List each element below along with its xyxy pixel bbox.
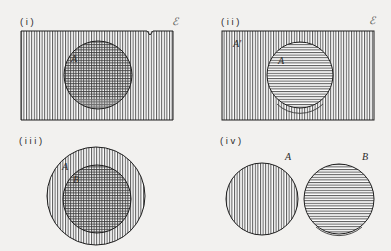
panel-i-number: ( i ) [20, 16, 34, 27]
panel-i-set-a-label: A [70, 53, 78, 64]
panel-iv: ( i v ) A B [220, 135, 375, 236]
panel-iv-set-a-label: A [284, 151, 292, 162]
panel-iv-set-a-fill [225, 162, 299, 236]
panel-iv-set-b-label: B [362, 151, 368, 162]
panel-iii: ( i i i ) A B [19, 135, 147, 247]
panel-ii-complement-label: A' [232, 38, 242, 49]
panel-ii-number: ( i i ) [221, 16, 239, 27]
panel-i: ( i ) ℰ A [20, 16, 180, 120]
set-diagram-figure: ( i ) ℰ A ( i i ) ℰ A' [0, 0, 391, 251]
panel-iii-set-b-label: B [73, 174, 79, 185]
panel-ii-universe-symbol: ℰ [369, 15, 377, 26]
figure-root: ( i ) ℰ A ( i i ) ℰ A' [0, 0, 391, 251]
panel-ii-set-a-label: A [277, 55, 285, 66]
panel-iii-set-a-label: A [61, 161, 69, 172]
panel-i-universe-symbol: ℰ [172, 16, 180, 27]
panel-ii: ( i i ) ℰ A' A [221, 15, 377, 120]
panel-iv-set-b-fill [303, 163, 375, 235]
panel-iv-number: ( i v ) [220, 135, 241, 146]
panel-iii-number: ( i i i ) [19, 135, 42, 146]
